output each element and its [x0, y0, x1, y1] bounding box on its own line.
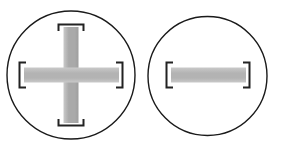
phillips-head	[7, 11, 135, 139]
slotted-head	[148, 17, 267, 136]
slot-horizontal	[24, 68, 119, 83]
screw-head-diagram	[0, 0, 281, 149]
slot-horizontal	[171, 68, 246, 83]
diagram-canvas	[0, 0, 281, 149]
